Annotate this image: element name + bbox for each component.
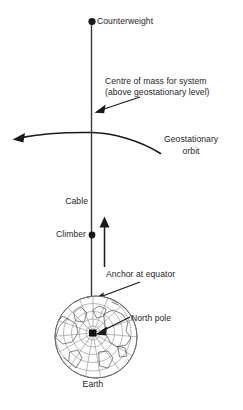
label-earth: Earth bbox=[66, 379, 120, 390]
label-anchor-at-equator: Anchor at equator bbox=[106, 269, 175, 280]
climber-dot bbox=[89, 232, 96, 239]
space-elevator-diagram: Counterweight Centre of mass for system … bbox=[0, 0, 243, 410]
label-cable: Cable bbox=[48, 196, 88, 207]
label-geostationary-orbit-line2: orbit bbox=[164, 146, 218, 158]
label-climber: Climber bbox=[38, 229, 86, 240]
counterweight-dot bbox=[88, 18, 95, 25]
climber-direction-arrow bbox=[100, 217, 110, 268]
label-north-pole: North pole bbox=[131, 313, 171, 324]
label-centre-of-mass-line2: (above geostationary level) bbox=[105, 87, 210, 98]
centre-of-mass-arrow bbox=[95, 97, 141, 113]
diagram-canvas bbox=[0, 0, 243, 410]
label-centre-of-mass: Centre of mass for system (above geostat… bbox=[105, 76, 210, 98]
label-geostationary-orbit-line1: Geostationary bbox=[164, 134, 218, 146]
label-geostationary-orbit: Geostationary orbit bbox=[164, 134, 218, 157]
label-counterweight: Counterweight bbox=[97, 16, 153, 27]
geostationary-orbit-arrow bbox=[13, 132, 161, 153]
label-centre-of-mass-line1: Centre of mass for system bbox=[105, 76, 210, 87]
north-pole-dot bbox=[89, 330, 97, 337]
